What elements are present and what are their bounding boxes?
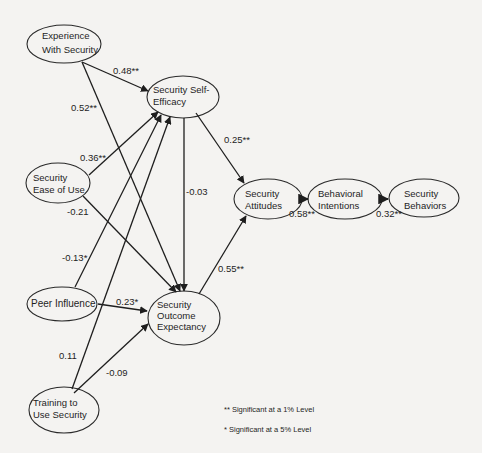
edge-label-self-efficacy-outcome: -0.03 bbox=[186, 186, 208, 197]
node-outcome: Security Outcome Expectancy bbox=[157, 299, 206, 332]
edge-label-experience-outcome: 0.52** bbox=[71, 102, 97, 113]
node-experience: Experience With Security bbox=[42, 30, 98, 56]
node-training-line1: Training to bbox=[33, 397, 87, 409]
edge-label-attitudes-intentions: 0.58** bbox=[289, 208, 315, 219]
node-ease-of-use: Security Ease of Use bbox=[33, 172, 85, 196]
node-experience-line2: With Security bbox=[42, 44, 98, 56]
node-behaviors-line1: Security bbox=[404, 188, 446, 200]
edge-label-peer-self-efficacy: -0.13* bbox=[62, 252, 87, 263]
node-training-line2: Use Security bbox=[33, 409, 87, 421]
legend-one-percent: ** Significant at a 1% Level bbox=[224, 405, 314, 414]
node-self-efficacy-line2: Efficacy bbox=[153, 96, 210, 108]
node-ease-of-use-line1: Security bbox=[33, 172, 85, 184]
edge-label-self-efficacy-attitudes: 0.25** bbox=[224, 134, 250, 145]
node-intentions: Behavioral Intentions bbox=[318, 188, 363, 212]
edge-label-ease-outcome: -0.21 bbox=[67, 206, 89, 217]
node-experience-line1: Experience bbox=[42, 30, 98, 42]
path-diagram bbox=[0, 0, 482, 453]
node-intentions-line1: Behavioral bbox=[318, 188, 363, 200]
node-outcome-line1: Security bbox=[157, 299, 206, 310]
node-outcome-line2: Outcome bbox=[157, 310, 206, 321]
edge-label-ease-self-efficacy: 0.36** bbox=[80, 152, 106, 163]
node-self-efficacy: Security Self- Efficacy bbox=[153, 84, 210, 108]
node-peer-line1: Peer Influence bbox=[31, 298, 96, 310]
node-outcome-line3: Expectancy bbox=[157, 321, 206, 332]
node-attitudes-line1: Security bbox=[245, 188, 282, 200]
node-attitudes-line2: Attitudes bbox=[245, 200, 282, 212]
edge-label-experience-self-efficacy: 0.48** bbox=[113, 65, 139, 76]
edge-label-peer-outcome: 0.23* bbox=[116, 296, 138, 307]
edge-label-training-self-efficacy: 0.11 bbox=[59, 350, 77, 361]
node-peer: Peer Influence bbox=[31, 298, 96, 310]
node-attitudes: Security Attitudes bbox=[245, 188, 282, 212]
edge-training-outcome bbox=[74, 324, 148, 393]
node-training: Training to Use Security bbox=[33, 397, 87, 421]
legend-five-percent: * Significant at a 5% Level bbox=[224, 425, 311, 434]
node-intentions-line2: Intentions bbox=[318, 200, 363, 212]
node-self-efficacy-line1: Security Self- bbox=[153, 84, 210, 96]
edge-ease-self-efficacy bbox=[89, 112, 158, 175]
node-behaviors: Security Behaviors bbox=[404, 188, 446, 212]
edge-label-training-outcome: -0.09 bbox=[106, 367, 128, 378]
node-behaviors-line2: Behaviors bbox=[404, 200, 446, 212]
edge-label-intentions-behaviors: 0.32** bbox=[376, 208, 402, 219]
edge-outcome-attitudes bbox=[199, 216, 246, 294]
node-ease-of-use-line2: Ease of Use bbox=[33, 184, 85, 196]
edge-label-outcome-attitudes: 0.55** bbox=[218, 263, 244, 274]
edge-self-efficacy-attitudes bbox=[196, 113, 244, 183]
